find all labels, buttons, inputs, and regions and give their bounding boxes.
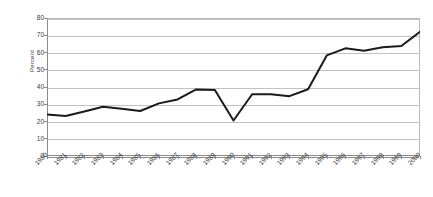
y-axis-tick-label: 40 <box>26 84 44 91</box>
y-axis-tick-label: 80 <box>26 15 44 22</box>
y-axis-tick-label: 30 <box>26 101 44 108</box>
line-chart: Percent 01020304050607080 19801981198219… <box>0 0 433 197</box>
series-polyline <box>47 32 420 121</box>
y-axis-tick-labels: 01020304050607080 <box>26 18 44 156</box>
y-axis-tick-mark <box>44 35 47 36</box>
y-axis-tick-mark <box>44 87 47 88</box>
y-axis-tick-label: 20 <box>26 118 44 125</box>
y-axis-tick-label: 50 <box>26 67 44 74</box>
y-axis-tick-label: 60 <box>26 49 44 56</box>
y-axis-tick-mark <box>44 104 47 105</box>
y-axis-tick-mark <box>44 18 47 19</box>
series-line-percent <box>47 18 420 156</box>
y-axis-tick-mark <box>44 69 47 70</box>
y-axis-tick-label: 70 <box>26 32 44 39</box>
y-axis-tick-label: 10 <box>26 136 44 143</box>
y-axis-tick-mark <box>44 52 47 53</box>
y-axis-tick-mark <box>44 138 47 139</box>
y-axis-tick-mark <box>44 121 47 122</box>
